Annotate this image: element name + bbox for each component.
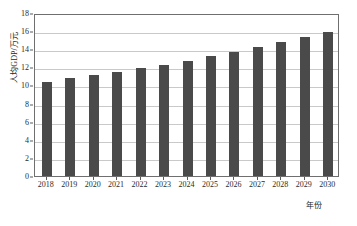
bar: [206, 56, 216, 176]
y-tick-mark: [30, 50, 33, 51]
y-tick-mark: [30, 177, 33, 178]
y-tick-label: 14: [21, 46, 29, 54]
y-tick-label: 0: [25, 173, 29, 181]
y-tick-label: 8: [25, 101, 29, 109]
bar: [183, 61, 193, 176]
chart-page: 人均GDP/万元 024681012141618 201820192020202…: [0, 0, 357, 226]
bar: [229, 52, 239, 176]
x-tick-label: 2024: [179, 181, 195, 189]
bar: [159, 65, 169, 176]
x-tick-label: 2025: [202, 181, 218, 189]
bar: [253, 47, 263, 176]
y-tick-label: 18: [21, 10, 29, 18]
y-tick-mark: [30, 14, 33, 15]
x-axis: 2018201920202021202220232024202520262027…: [34, 177, 339, 193]
y-tick-label: 6: [25, 119, 29, 127]
bar: [276, 42, 286, 176]
bar-series: [35, 15, 338, 176]
y-tick-mark: [30, 158, 33, 159]
x-tick-label: 2019: [61, 181, 77, 189]
bar: [112, 72, 122, 176]
x-tick-label: 2022: [132, 181, 148, 189]
x-tick-label: 2029: [296, 181, 312, 189]
bar: [136, 68, 146, 176]
y-tick-label: 4: [25, 137, 29, 145]
x-tick-label: 2026: [225, 181, 241, 189]
x-axis-title: 年份: [306, 199, 322, 210]
x-tick-label: 2030: [319, 181, 335, 189]
y-axis: 024681012141618: [0, 14, 33, 177]
y-tick-label: 10: [21, 82, 29, 90]
y-tick-label: 16: [21, 28, 29, 36]
x-tick-label: 2021: [108, 181, 124, 189]
bar: [42, 82, 52, 176]
y-tick-mark: [30, 68, 33, 69]
x-tick-label: 2028: [272, 181, 288, 189]
plot-area: [34, 14, 339, 177]
x-tick-label: 2027: [249, 181, 265, 189]
y-tick-mark: [30, 86, 33, 87]
x-tick-label: 2018: [38, 181, 54, 189]
y-tick-mark: [30, 140, 33, 141]
bar: [89, 75, 99, 176]
y-tick-mark: [30, 104, 33, 105]
y-tick-label: 2: [25, 155, 29, 163]
bar: [65, 78, 75, 176]
x-tick-label: 2023: [155, 181, 171, 189]
bar: [323, 32, 333, 176]
x-tick-label: 2020: [85, 181, 101, 189]
y-tick-mark: [30, 32, 33, 33]
y-tick-label: 12: [21, 64, 29, 72]
bar: [300, 37, 310, 176]
y-tick-mark: [30, 122, 33, 123]
